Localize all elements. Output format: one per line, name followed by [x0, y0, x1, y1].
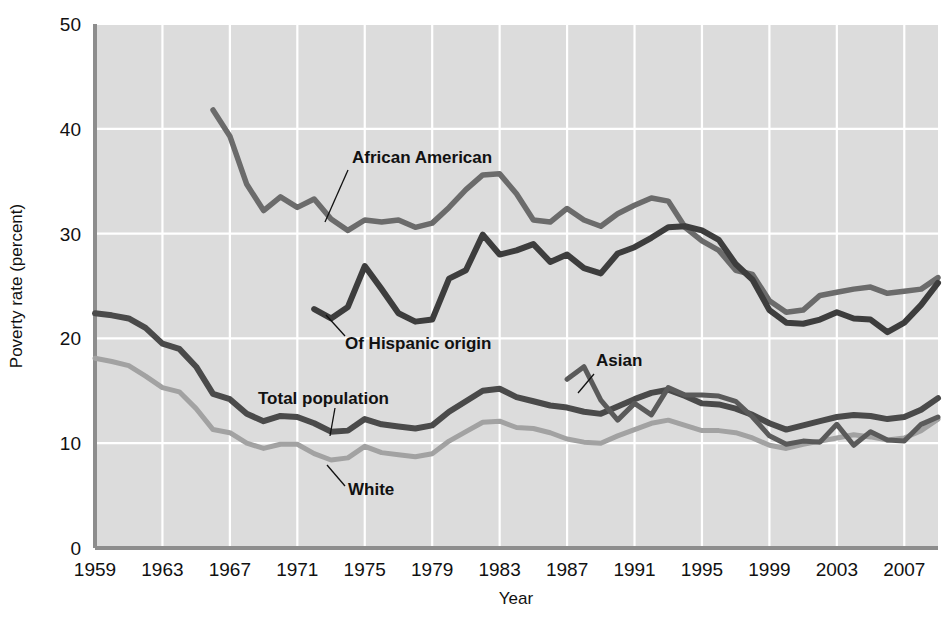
- x-tick-label: 2007: [883, 559, 925, 580]
- chart-svg: 01020304050 1959196319671971197519791983…: [0, 0, 950, 625]
- y-tick-label: 50: [60, 14, 81, 35]
- x-tick-label: 1979: [411, 559, 453, 580]
- x-tick-label: 1983: [478, 559, 520, 580]
- x-axis-tick-labels: 1959196319671971197519791983198719911995…: [74, 559, 926, 580]
- x-tick-label: 1975: [344, 559, 386, 580]
- y-tick-label: 0: [70, 538, 81, 559]
- x-tick-label: 1991: [613, 559, 655, 580]
- series-label-african-american: African American: [352, 148, 492, 167]
- series-label-hispanic: Of Hispanic origin: [345, 334, 491, 353]
- series-label-white: White: [348, 480, 394, 499]
- series-label-total-population: Total population: [258, 389, 389, 408]
- y-tick-label: 30: [60, 224, 81, 245]
- x-tick-label: 1987: [546, 559, 588, 580]
- series-label-asian: Asian: [596, 351, 642, 370]
- y-tick-label: 10: [60, 433, 81, 454]
- x-tick-label: 1999: [748, 559, 790, 580]
- x-tick-label: 2003: [816, 559, 858, 580]
- x-tick-label: 1995: [681, 559, 723, 580]
- x-tick-label: 1971: [276, 559, 318, 580]
- x-tick-label: 1959: [74, 559, 116, 580]
- x-tick-label: 1967: [209, 559, 251, 580]
- plot-area-background: [95, 24, 938, 548]
- poverty-rate-line-chart: 01020304050 1959196319671971197519791983…: [0, 0, 950, 625]
- y-tick-label: 40: [60, 119, 81, 140]
- x-tick-label: 1963: [141, 559, 183, 580]
- y-axis-title: Poverty rate (percent): [7, 204, 26, 368]
- y-axis-tick-labels: 01020304050: [60, 14, 81, 559]
- y-tick-label: 20: [60, 328, 81, 349]
- x-axis-title: Year: [499, 589, 534, 608]
